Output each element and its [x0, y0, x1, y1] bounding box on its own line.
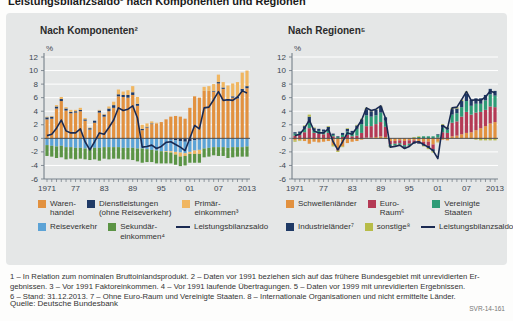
bar-segment — [164, 152, 167, 164]
bar-segment — [451, 123, 454, 137]
bar-segment — [245, 86, 248, 88]
bar-segment — [493, 107, 496, 122]
bar-segment — [60, 138, 63, 145]
bar-segment — [60, 99, 63, 101]
legend-color-swatch — [108, 223, 116, 231]
legend-color-swatch — [365, 223, 373, 231]
bar-segment — [331, 135, 334, 136]
bar-segment — [203, 139, 206, 148]
bar-segment — [88, 127, 91, 128]
bar-segment — [83, 118, 86, 119]
legend-color-swatch — [286, 200, 294, 208]
bar-segment — [217, 75, 220, 82]
bar-segment — [431, 144, 434, 149]
bar-segment — [45, 138, 48, 145]
bar-segment — [60, 146, 63, 158]
bar-segment — [222, 82, 225, 87]
x-tick-label: 1971 — [38, 184, 56, 193]
bar-segment — [193, 140, 196, 150]
bar-segment — [465, 101, 468, 112]
bar-segment — [417, 136, 420, 137]
bar-segment — [141, 125, 144, 129]
bar-segment — [126, 138, 129, 147]
bar-segment — [160, 151, 163, 163]
bar-segment — [231, 98, 234, 139]
bar-segment — [55, 105, 58, 106]
bar-segment — [245, 71, 248, 87]
bar-segment — [470, 115, 473, 133]
components-chart-title: Nach Komponenten² — [40, 25, 138, 36]
bar-segment — [150, 124, 153, 138]
bar-segment — [241, 138, 244, 147]
bar-segment — [470, 106, 473, 115]
bar-segment — [474, 113, 477, 131]
bar-segment — [341, 135, 344, 137]
bar-segment — [117, 138, 120, 147]
bar-segment — [155, 123, 158, 124]
bar-segment — [379, 122, 382, 136]
bar-segment — [107, 147, 110, 159]
bar-segment — [74, 111, 77, 112]
bar-segment — [431, 138, 434, 144]
bar-segment — [322, 134, 325, 138]
bar-segment — [493, 122, 496, 138]
bar-segment — [174, 152, 177, 155]
bar-segment — [79, 148, 82, 159]
bar-segment — [226, 138, 229, 147]
bar-segment — [74, 148, 77, 160]
legend-label: Dienstleistungen (ohne Reiseverkehr) — [99, 199, 171, 217]
bar-segment — [460, 134, 463, 138]
y-tick-label: 12 — [277, 53, 286, 62]
bar-segment — [336, 151, 339, 152]
y-tick-label: 0 — [282, 134, 287, 143]
bar-segment — [193, 96, 196, 138]
legend-item: Dienstleistungen (ohne Reiseverkehr) — [87, 199, 171, 217]
bar-segment — [136, 138, 139, 148]
bar-segment — [145, 138, 148, 149]
bar-segment — [360, 133, 363, 138]
bar-segment — [207, 91, 210, 138]
bar-segment — [64, 111, 67, 139]
bar-segment — [222, 89, 225, 138]
bar-segment — [327, 126, 330, 127]
bar-segment — [217, 138, 220, 147]
legend-label: Vereinigte Staaten — [444, 199, 506, 217]
bar-segment — [145, 127, 148, 128]
bar-segment — [312, 138, 315, 141]
bar-segment — [112, 105, 115, 108]
bar-segment — [112, 147, 115, 159]
bar-segment — [155, 123, 158, 138]
bar-segment — [136, 149, 139, 162]
legend-color-swatch — [432, 200, 440, 208]
bar-segment — [150, 138, 153, 150]
bar-segment — [298, 140, 301, 141]
bar-segment — [117, 94, 120, 96]
y-tick-label: 2 — [282, 120, 287, 129]
bar-segment — [79, 108, 82, 110]
bar-segment — [203, 87, 206, 91]
bar-segment — [164, 139, 167, 151]
bar-segment — [212, 147, 215, 155]
bar-segment — [308, 138, 311, 143]
bar-segment — [212, 91, 215, 92]
bar-segment — [174, 140, 177, 152]
bar-segment — [188, 152, 191, 154]
bar-segment — [50, 146, 53, 157]
bar-segment — [231, 138, 234, 147]
bar-segment — [193, 154, 196, 163]
bar-segment — [360, 124, 363, 133]
bar-segment — [393, 141, 396, 144]
bar-segment — [93, 123, 96, 139]
bar-segment — [427, 138, 430, 141]
y-tick-label: -6 — [31, 175, 39, 184]
bar-segment — [69, 138, 72, 147]
bar-segment — [231, 147, 234, 157]
bar-segment — [131, 95, 134, 138]
bar-segment — [398, 140, 401, 143]
y-tick-label: -4 — [279, 161, 287, 170]
bar-segment — [474, 130, 477, 138]
bar-segment — [131, 138, 134, 147]
bar-segment — [141, 129, 144, 130]
bar-segment — [245, 138, 248, 146]
bar-segment — [126, 90, 129, 95]
